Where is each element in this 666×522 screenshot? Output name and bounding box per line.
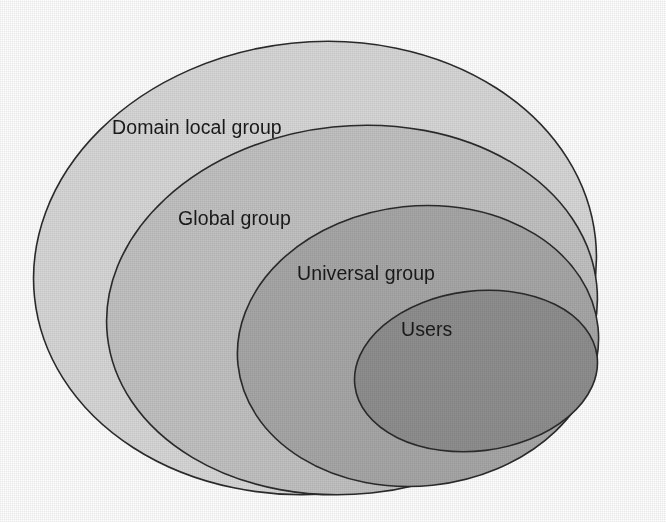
users-label: Users bbox=[401, 318, 453, 340]
nested-group-scope-venn-diagram: Domain local group Global group Universa… bbox=[0, 0, 666, 522]
domain-local-group-label: Domain local group bbox=[112, 116, 282, 138]
universal-group-label: Universal group bbox=[297, 262, 435, 284]
global-group-label: Global group bbox=[178, 207, 291, 229]
diagram-canvas: Domain local group Global group Universa… bbox=[0, 0, 666, 522]
